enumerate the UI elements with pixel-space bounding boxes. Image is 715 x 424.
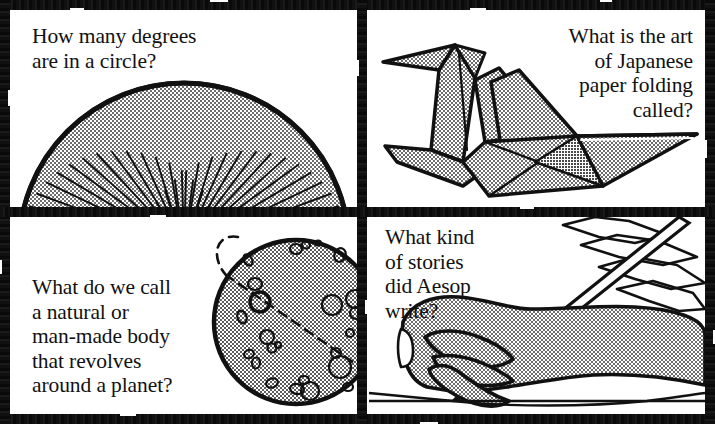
panel-bottom-left[interactable]: What do we call a natural or man-made bo… — [10, 217, 357, 414]
question-text-top-left: How many degrees are in a circle? — [32, 24, 196, 73]
panel-bottom-right[interactable]: What kind of stories did Aesop write? — [367, 217, 705, 414]
question-text-bottom-right: What kind of stories did Aesop write? — [385, 225, 474, 323]
border-nick — [600, 0, 612, 2]
panel-top-left[interactable]: How many degrees are in a circle? — [10, 10, 357, 207]
border-bottom — [0, 414, 715, 424]
panel-top-right[interactable]: What is the art of Japanese paper foldin… — [367, 10, 705, 207]
border-left — [0, 0, 10, 424]
border-top — [0, 0, 715, 10]
divider-horizontal — [0, 207, 715, 217]
border-nick — [0, 260, 2, 274]
border-nick — [705, 140, 707, 158]
question-card-grid: How many degrees are in a circle? — [0, 0, 715, 424]
border-right — [705, 0, 715, 424]
border-nick — [357, 60, 359, 76]
border-nick — [520, 207, 534, 209]
question-text-bottom-left: What do we call a natural or man-made bo… — [32, 275, 172, 398]
divider-vertical — [357, 0, 367, 424]
border-nick — [120, 414, 136, 416]
question-text-top-right: What is the art of Japanese paper foldin… — [569, 24, 693, 122]
border-nick — [210, 0, 228, 2]
